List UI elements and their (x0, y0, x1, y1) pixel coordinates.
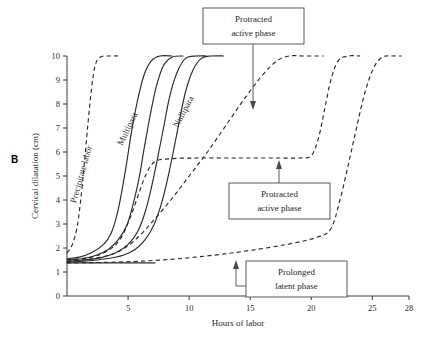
arrowhead-top (250, 101, 256, 110)
annotation-protracted-active-mid: Protracted active phase (229, 160, 330, 219)
series-protracted-active-phase-arrest-plateau (67, 56, 360, 260)
x-tick-label-25: 25 (368, 303, 377, 313)
x-tick-label-10: 10 (185, 303, 194, 313)
callout-top-line2: active phase (231, 28, 275, 38)
y-tick-label-3: 3 (56, 219, 60, 229)
chart-axes (67, 56, 409, 296)
callout-latent-line2: latent phase (275, 281, 318, 291)
arrowhead-mid (276, 160, 282, 169)
y-axis-title: Cervical dilatation (cm) (30, 133, 40, 219)
cervical-dilatation-chart: B 012345678910 51015202528 Cervical dila… (0, 0, 421, 341)
y-tick-label-5: 5 (56, 171, 60, 181)
y-tick-label-9: 9 (56, 75, 60, 85)
y-tick-label-2: 2 (56, 243, 60, 253)
x-axis-title: Hours of labor (212, 318, 265, 328)
y-tick-label-7: 7 (56, 123, 60, 133)
y-axis-ticks: 012345678910 (52, 51, 68, 301)
panel-label-b: B (11, 154, 18, 165)
chart-series-group (67, 56, 402, 263)
x-tick-label-28: 28 (405, 303, 414, 313)
series-precipitate-labor (67, 56, 118, 253)
x-axis-ticks: 51015202528 (126, 296, 413, 313)
callout-top-line1: Protracted (235, 14, 272, 24)
curve-label-nullipara: Nullipara (171, 94, 196, 129)
annotation-prolonged-latent: Prolonged latent phase (233, 260, 347, 297)
y-tick-label-6: 6 (56, 147, 60, 157)
figure-panel-b: B 012345678910 51015202528 Cervical dila… (0, 0, 421, 341)
x-tick-label-5: 5 (126, 303, 130, 313)
y-tick-label-4: 4 (56, 195, 61, 205)
series-prolonged-latent-phase (67, 56, 402, 263)
y-tick-label-0: 0 (56, 291, 60, 301)
x-tick-label-15: 15 (246, 303, 255, 313)
annotation-protracted-active-top: Protracted active phase (203, 8, 304, 110)
callout-mid-line1: Protracted (261, 189, 298, 199)
y-tick-label-8: 8 (56, 99, 60, 109)
callout-mid-line2: active phase (257, 203, 301, 213)
x-tick-label-20: 20 (307, 303, 316, 313)
y-tick-label-10: 10 (52, 51, 61, 61)
y-tick-label-1: 1 (56, 267, 60, 277)
curve-label-multipara: Multipara (115, 111, 140, 147)
callout-latent-line1: Prolonged (278, 267, 315, 277)
arrowhead-latent (233, 260, 239, 269)
